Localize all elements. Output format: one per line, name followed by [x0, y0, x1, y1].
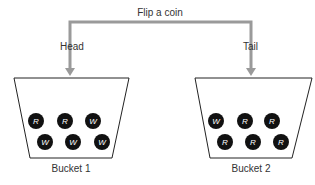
svg-text:R: R	[269, 117, 275, 126]
ball: R	[57, 113, 73, 129]
bucket-2-label: Bucket 2	[232, 163, 271, 174]
arrow-head-left-icon	[65, 68, 75, 76]
ball: W	[37, 134, 53, 150]
svg-text:R: R	[250, 138, 256, 147]
ball: R	[273, 134, 289, 150]
ball: R	[237, 113, 253, 129]
ball: W	[94, 134, 110, 150]
ball: R	[28, 113, 44, 129]
bucket-1: R R W W W W Bucket 1	[14, 78, 129, 174]
title-label: Flip a coin	[137, 7, 183, 18]
ball: W	[208, 113, 224, 129]
ball: W	[65, 134, 81, 150]
head-label: Head	[60, 41, 84, 52]
branch-arrows	[65, 22, 256, 76]
tail-label: Tail	[243, 41, 258, 52]
svg-text:R: R	[278, 138, 284, 147]
bucket-2: W R R R R R Bucket 2	[195, 78, 312, 174]
ball: R	[264, 113, 280, 129]
ball: W	[85, 113, 101, 129]
ball: R	[217, 134, 233, 150]
svg-text:R: R	[222, 138, 228, 147]
bucket-1-label: Bucket 1	[52, 163, 91, 174]
svg-text:R: R	[242, 117, 248, 126]
svg-text:R: R	[62, 117, 68, 126]
coin-flip-diagram: Flip a coin Head Tail R R W W W W Bucket…	[0, 0, 315, 185]
arrow-head-right-icon	[246, 68, 256, 76]
ball: R	[245, 134, 261, 150]
svg-text:R: R	[33, 117, 39, 126]
